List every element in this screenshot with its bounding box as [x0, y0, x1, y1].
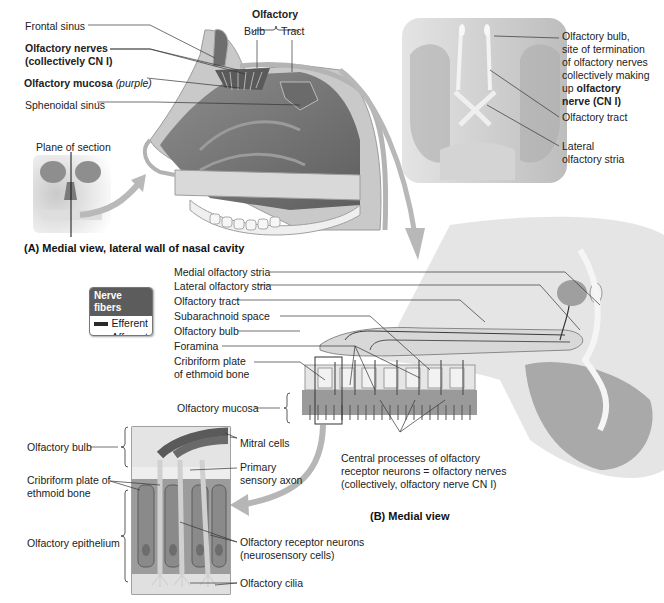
- label-olfactory-mucosa-text: Olfactory mucosa: [24, 77, 113, 89]
- label-primary-axon-1: Primary: [240, 461, 276, 474]
- label-lateral-stria-2: olfactory stria: [562, 153, 624, 166]
- label-olfactory-heading: Olfactory: [252, 8, 298, 21]
- label-bulb-desc-4: collectively making: [562, 69, 650, 82]
- label-bulb-desc-3: of olfactory nerves: [562, 56, 648, 69]
- label-sphenoidal-sinus: Sphenoidal sinus: [25, 99, 105, 112]
- inferior-brain-illustration: [402, 18, 567, 183]
- medial-view-illustration: [302, 217, 664, 478]
- label-olfactory-mucosa-note: (purple): [116, 77, 152, 89]
- skull-thumbnail: [33, 152, 111, 237]
- label-subarachnoid-space: Subarachnoid space: [174, 310, 270, 323]
- label-inset-cribriform-1: Cribriform plate of: [27, 474, 110, 487]
- label-primary-axon-2: sensory axon: [240, 474, 302, 487]
- legend-label-afferent: Afferent: [111, 331, 148, 336]
- caption-figure-b: (B) Medial view: [370, 510, 449, 522]
- label-lateral-olfactory-stria: Lateral olfactory stria: [174, 280, 271, 293]
- legend-item-efferent: Efferent: [90, 316, 152, 330]
- label-tract: Tract: [281, 25, 305, 38]
- label-olfactory-tract: Olfactory tract: [174, 295, 239, 308]
- label-olfactory-mucosa: Olfactory mucosa (purple): [24, 77, 152, 90]
- label-inset-olfactory-bulb: Olfactory bulb: [27, 441, 92, 454]
- label-central-processes-1: Central processes of olfactory: [341, 452, 480, 465]
- caption-figure-a: (A) Medial view, lateral wall of nasal c…: [24, 242, 244, 254]
- legend-title: Nerve fibers: [90, 288, 152, 316]
- label-inset-cribriform-2: ethmoid bone: [27, 487, 91, 500]
- label-olfactory-nerves: Olfactory nerves: [25, 42, 108, 55]
- label-bulb: Bulb: [244, 25, 265, 38]
- label-central-processes-2: receptor neurons = olfactory nerves: [341, 465, 506, 478]
- label-cribriform-plate-1: Cribriform plate: [174, 355, 246, 368]
- label-olfactory-bulb: Olfactory bulb: [174, 325, 239, 338]
- label-olfactory-cilia: Olfactory cilia: [240, 577, 303, 590]
- label-lateral-stria-1: Lateral: [562, 140, 594, 153]
- legend-label-efferent: Efferent: [111, 317, 148, 330]
- nerve-fibers-legend: Nerve fibers Efferent Afferent: [89, 287, 153, 336]
- label-olfactory-mucosa-b: Olfactory mucosa: [177, 402, 259, 415]
- legend-item-afferent: Afferent: [90, 330, 152, 336]
- nasal-cavity-illustration: [145, 30, 386, 235]
- label-receptor-neurons-2: (neurosensory cells): [240, 549, 335, 562]
- label-foramina: Foramina: [174, 340, 218, 353]
- label-olfactory-nerves-sub: (collectively CN I): [25, 55, 113, 68]
- label-bulb-desc-5-prefix: up: [562, 82, 577, 94]
- label-medial-olfactory-stria: Medial olfactory stria: [174, 266, 270, 279]
- label-frontal-sinus: Frontal sinus: [25, 20, 85, 33]
- label-mitral-cells: Mitral cells: [240, 437, 290, 450]
- efferent-swatch-icon: [94, 322, 108, 326]
- label-central-processes-3: (collectively, olfactory nerve CN I): [341, 478, 497, 491]
- label-receptor-neurons-1: Olfactory receptor neurons: [240, 536, 364, 549]
- label-bulb-desc-1: Olfactory bulb,: [562, 30, 630, 43]
- label-plane-of-section: Plane of section: [36, 141, 111, 154]
- label-bulb-desc-5: up olfactory: [562, 82, 621, 95]
- label-bulb-desc-5-bold: olfactory: [577, 82, 621, 94]
- epithelium-inset-illustration: [132, 427, 230, 594]
- afferent-swatch-icon: [94, 336, 108, 337]
- label-bulb-desc-6: nerve (CN I): [562, 95, 621, 108]
- label-cribriform-plate-2: of ethmoid bone: [174, 368, 249, 381]
- label-inferior-olfactory-tract: Olfactory tract: [562, 111, 627, 124]
- label-olfactory-epithelium: Olfactory epithelium: [27, 537, 120, 550]
- label-bulb-desc-2: site of termination: [562, 43, 645, 56]
